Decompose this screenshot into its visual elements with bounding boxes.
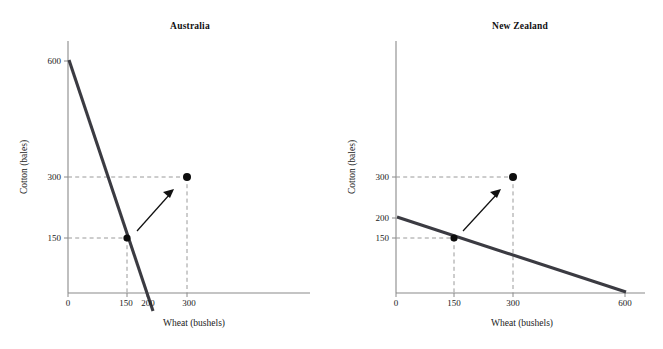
new-zealand-y-axis-title: Cotton (bales) [347, 140, 358, 194]
new-zealand-ytick-label-150: 150 [376, 233, 390, 243]
new-zealand-ytick-label-200: 200 [376, 213, 390, 223]
new-zealand-panel-title: New Zealand [492, 21, 548, 31]
new-zealand-chart-panel: New Zealand 0 150 300 600 150 [0, 0, 663, 349]
two-panel-ppf-figure: Australia 0 150 200 300 150 [0, 0, 663, 349]
new-zealand-xtick-label-150: 150 [447, 298, 461, 308]
new-zealand-trade-arrow-shaft [463, 194, 497, 231]
new-zealand-trade-arrow-head [490, 189, 501, 198]
new-zealand-ytick-label-300: 300 [376, 172, 390, 182]
new-zealand-point-production [450, 234, 457, 241]
new-zealand-x-axis-title: Wheat (bushels) [491, 318, 553, 329]
new-zealand-xtick-label-0: 0 [394, 298, 399, 308]
new-zealand-xtick-label-300: 300 [506, 298, 520, 308]
new-zealand-ppf-line [397, 217, 626, 292]
new-zealand-xtick-label-600: 600 [618, 298, 632, 308]
new-zealand-point-consumption [509, 173, 517, 181]
